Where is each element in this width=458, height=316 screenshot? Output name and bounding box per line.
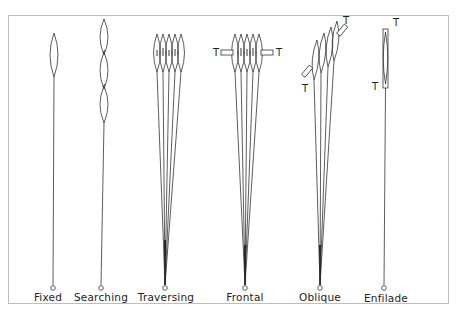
target-label-enfilade-lower: T	[372, 81, 378, 92]
trajectory-line	[101, 123, 104, 285]
trajectory-line	[384, 88, 386, 285]
target-label-frontal-right: T	[276, 47, 282, 58]
gun-position-icon	[318, 286, 323, 291]
label-fixed: Fixed	[34, 291, 62, 303]
target-label-oblique-lower: T	[302, 83, 308, 94]
target-bar-right	[261, 50, 273, 55]
label-searching: Searching	[74, 291, 128, 303]
target-label-oblique-upper: T	[343, 15, 349, 26]
gun-position-icon	[163, 286, 168, 291]
label-enfilade: Enfilade	[364, 292, 408, 304]
beaten-zone-ellipse	[50, 33, 58, 77]
beaten-zone-ellipse	[100, 52, 108, 89]
target-label-frontal-left: T	[213, 47, 219, 58]
traversing-fire-pattern	[154, 34, 185, 290]
trajectory-line	[53, 77, 54, 285]
label-oblique: Oblique	[299, 291, 341, 303]
gun-position-icon	[243, 286, 248, 291]
beaten-zone-ellipse	[100, 86, 108, 123]
gun-position-icon	[99, 286, 104, 291]
label-frontal: Frontal	[226, 291, 263, 303]
enfilade-fire-pattern	[382, 29, 388, 290]
fire-patterns-diagram	[0, 0, 458, 316]
searching-fire-pattern	[99, 19, 108, 290]
target-bar-lower	[302, 65, 313, 77]
gun-position-icon	[382, 286, 387, 291]
label-traversing: Traversing	[138, 291, 194, 303]
target-column	[383, 29, 388, 88]
target-label-enfilade-upper: T	[393, 17, 399, 28]
beaten-zone-ellipse	[100, 19, 108, 55]
oblique-fire-pattern	[302, 21, 348, 290]
target-bar-left	[221, 50, 233, 55]
fixed-fire-pattern	[50, 33, 58, 290]
frontal-fire-pattern	[221, 34, 273, 290]
gun-position-icon	[51, 286, 56, 291]
